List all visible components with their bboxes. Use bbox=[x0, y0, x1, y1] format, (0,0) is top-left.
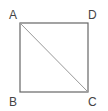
square-diagram: A B C D bbox=[0, 0, 108, 111]
vertex-label-b: B bbox=[9, 95, 17, 109]
vertex-label-a: A bbox=[9, 8, 17, 22]
vertex-label-c: C bbox=[88, 95, 97, 109]
vertex-label-d: D bbox=[88, 8, 97, 22]
diagonal-ac bbox=[20, 23, 88, 92]
